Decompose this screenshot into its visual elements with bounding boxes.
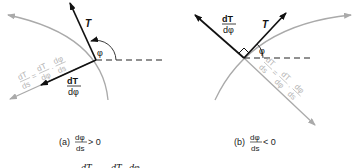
svg-text:dφ: dφ xyxy=(250,133,260,142)
dTds-arrow-b xyxy=(244,58,315,125)
caption-a: (a) dφ ds > 0 xyxy=(59,133,101,153)
figure: T φ dT dφ dT ds = dT dφ · dφ ds (a) dφ d… xyxy=(0,0,355,168)
right-angle-mark-b xyxy=(239,48,249,53)
svg-text:dφ: dφ xyxy=(75,133,85,142)
panel-b: T φ dT dφ dT ds = dT dφ · dφ ds (b) dφ d… xyxy=(195,13,351,153)
tangent-vector-a xyxy=(70,3,96,60)
bottom-equation: dT dT dφ xyxy=(81,162,140,168)
dTdphi-den-a: dφ xyxy=(68,87,79,97)
svg-text:(a): (a) xyxy=(59,137,70,147)
svg-text:dT: dT xyxy=(81,162,93,168)
svg-text:ds: ds xyxy=(251,144,259,153)
svg-text:(b): (b) xyxy=(234,137,245,147)
svg-text:ds: ds xyxy=(76,144,84,153)
svg-text:dT: dT xyxy=(111,162,123,168)
svg-text:dφ: dφ xyxy=(129,162,140,168)
dTdphi-vector-b xyxy=(195,15,244,58)
curve-b xyxy=(215,15,351,100)
dTdphi-num-a: dT xyxy=(67,76,78,86)
panel-a: T φ dT dφ dT ds = dT dφ · dφ ds (a) dφ d… xyxy=(8,3,164,153)
dTdphi-num-b: dT xyxy=(222,14,233,24)
dTdphi-den-b: dφ xyxy=(223,25,234,35)
tangent-label-b: T xyxy=(262,19,269,30)
svg-text:=: = xyxy=(30,71,38,81)
tangent-label-a: T xyxy=(85,18,92,29)
caption-b: (b) dφ ds < 0 xyxy=(234,133,276,153)
svg-text:< 0: < 0 xyxy=(263,137,276,147)
chain-rule-a: dT ds = dT dφ · dφ ds xyxy=(16,53,69,91)
angle-label-a: φ xyxy=(97,48,103,58)
angle-label-b: φ xyxy=(259,46,265,56)
svg-text:> 0: > 0 xyxy=(88,137,101,147)
chain-rule-b: dT ds = dT dφ · dφ ds xyxy=(257,55,307,103)
